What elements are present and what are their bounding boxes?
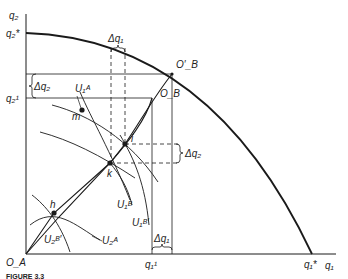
edgeworth-box-diagram: q₂ q₁ O_A q₂* q₂¹ q₁¹ q₁* O′_B O_B m i k… (0, 0, 348, 279)
curve-U1B-prime (120, 135, 149, 225)
figure-caption: FIGURE 3.3 (6, 273, 44, 279)
contract-curve-inner (26, 98, 152, 254)
curve-U1B (40, 132, 135, 178)
y-axis-label: q₂ (9, 10, 19, 21)
label-U1A: U₁ᴬ (75, 83, 90, 94)
label-dq2-right: Δq₂ (184, 148, 201, 159)
label-OB-prime: O′_B (176, 59, 198, 70)
label-U2B-prime: U₂ᴮ′ (44, 234, 63, 245)
label-dq2-left: Δq₂ (33, 81, 50, 92)
tick-q1-1: q₁¹ (145, 259, 158, 270)
label-dq1-bottom: Δq₁ (153, 233, 169, 244)
point-OB-prime (170, 72, 173, 75)
label-U2A: U₂ᴬ (102, 235, 118, 246)
point-i (122, 141, 127, 146)
label-i: i (131, 133, 134, 144)
point-h (51, 210, 56, 215)
tick-q1-star: q₁* (304, 259, 318, 270)
label-k: k (107, 168, 113, 179)
contract-curve-outer (26, 74, 172, 254)
tick-q2-1: q₂¹ (6, 93, 19, 104)
tick-q2-star: q₂* (6, 28, 20, 39)
brace-dq2-right (176, 144, 183, 163)
brace-dq1-bottom (152, 244, 172, 250)
point-k (107, 160, 112, 165)
label-dq1-top: Δq₁ (107, 33, 123, 44)
label-m: m (72, 111, 80, 122)
label-U1B: U₁ᴮ (117, 199, 132, 210)
origin-label: O_A (6, 257, 26, 268)
leader-U2A (92, 236, 102, 241)
label-U1B-prime: U₁ᴮ′ (132, 217, 150, 228)
x-axis-label: q₁ (325, 260, 334, 271)
label-h: h (50, 199, 56, 210)
label-OB: O_B (160, 88, 180, 99)
curve-U2A (30, 217, 100, 240)
